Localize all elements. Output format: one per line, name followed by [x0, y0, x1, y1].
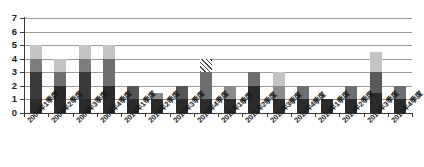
- bar-segment: [79, 45, 91, 59]
- y-tick-label-1: 1: [2, 94, 17, 104]
- y-tick-label-3: 3: [2, 67, 17, 77]
- y-tick-label-7: 7: [2, 13, 17, 23]
- bar-segment: [248, 72, 260, 86]
- bar-segment: [370, 72, 382, 92]
- bar-segment: [30, 59, 42, 73]
- bar-segment: [103, 45, 115, 59]
- bar-segment: [79, 59, 91, 73]
- bar-segment: [200, 59, 212, 73]
- bar-segment: [54, 59, 66, 73]
- bar-segment: [30, 45, 42, 59]
- x-axis-labels: 2009年1季度2009年2季度2009年3季度2009年4季度2010年1季度…: [0, 117, 414, 167]
- y-axis-ticks: 01234567: [0, 18, 24, 113]
- y-tick-label-4: 4: [2, 54, 17, 64]
- y-tick-label-6: 6: [2, 27, 17, 37]
- y-tick-label-2: 2: [2, 81, 17, 91]
- y-tick-label-5: 5: [2, 40, 17, 50]
- bar-segment: [54, 72, 66, 86]
- bar-segment: [30, 72, 42, 99]
- bar-segment: [370, 52, 382, 72]
- bar-segment: [103, 59, 115, 86]
- bar-segment: [273, 72, 285, 86]
